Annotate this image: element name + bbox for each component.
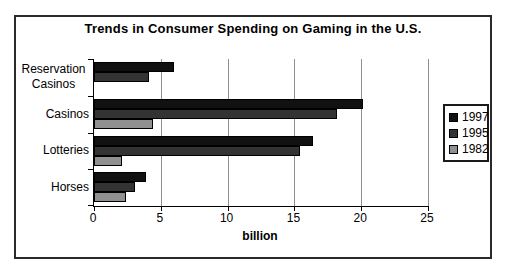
bar-horses-1982 (94, 192, 126, 202)
x-tick-label-10: 10 (220, 211, 233, 225)
bar-group-horses (94, 169, 428, 206)
legend-label-1982: 1982 (462, 142, 489, 156)
category-label: Casinos (46, 107, 89, 122)
x-tick-label-5: 5 (156, 211, 163, 225)
legend-item-1982: 1982 (449, 141, 487, 157)
category-label: Horses (51, 180, 89, 195)
y-axis-tick (88, 59, 94, 60)
x-tick-label-20: 20 (354, 211, 367, 225)
x-axis-title: billion (93, 229, 427, 243)
x-tick-label-0: 0 (90, 211, 97, 225)
bar-casinos-1982 (94, 119, 153, 129)
y-axis-tick (88, 169, 94, 170)
category-cell: Horses (18, 169, 89, 206)
bar-group-reservation-casinos (94, 59, 428, 96)
legend-swatch-1997 (449, 113, 458, 122)
category-cell: Reservation Casinos (18, 59, 89, 96)
category-label: Lotteries (43, 143, 89, 158)
category-label: Reservation Casinos (18, 62, 89, 92)
chart-screenshot: Trends in Consumer Spending on Gaming in… (0, 0, 509, 277)
chart-frame: Trends in Consumer Spending on Gaming in… (14, 15, 492, 259)
bar-rows (94, 59, 428, 206)
plot-area (93, 59, 428, 207)
legend-swatch-1995 (449, 129, 458, 138)
bar-reservation-casinos-1997 (94, 62, 174, 72)
legend: 199719951982 (443, 104, 489, 162)
bar-horses-1995 (94, 182, 135, 192)
x-axis-tick-labels: 0510152025 (93, 211, 427, 225)
chart-title: Trends in Consumer Spending on Gaming in… (16, 21, 490, 36)
bar-lotteries-1995 (94, 146, 300, 156)
category-axis-labels: Reservation CasinosCasinosLotteriesHorse… (18, 59, 89, 206)
bar-group-lotteries (94, 133, 428, 170)
category-cell: Lotteries (18, 133, 89, 170)
bar-casinos-1995 (94, 109, 337, 119)
legend-swatch-1982 (449, 145, 458, 154)
legend-label-1997: 1997 (462, 110, 489, 124)
legend-item-1995: 1995 (449, 125, 487, 141)
x-tick-label-15: 15 (287, 211, 300, 225)
bar-reservation-casinos-1995 (94, 72, 149, 82)
bar-lotteries-1982 (94, 156, 122, 166)
legend-label-1995: 1995 (462, 126, 489, 140)
bar-lotteries-1997 (94, 136, 313, 146)
x-tick-label-25: 25 (420, 211, 433, 225)
legend-item-1997: 1997 (449, 109, 487, 125)
bar-horses-1997 (94, 172, 146, 182)
category-cell: Casinos (18, 96, 89, 133)
gridline-25 (428, 59, 429, 206)
y-axis-tick (88, 133, 94, 134)
bar-group-casinos (94, 96, 428, 133)
y-axis-tick (88, 96, 94, 97)
bar-casinos-1997 (94, 99, 363, 109)
